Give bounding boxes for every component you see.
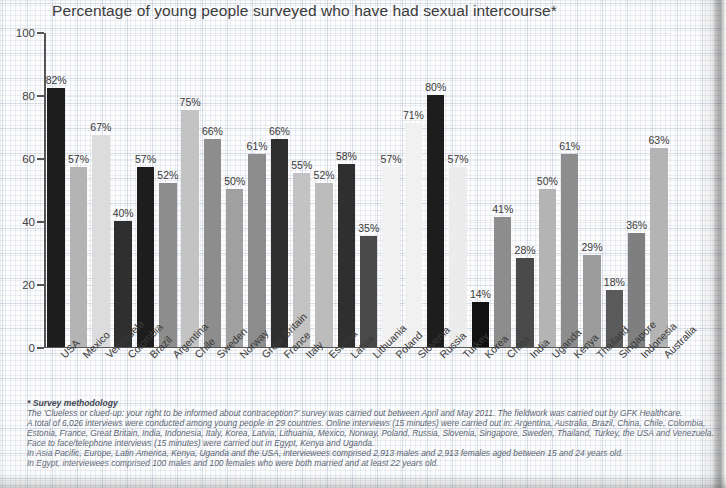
bar: 57% <box>449 167 466 347</box>
bar-value-label: 52% <box>314 169 335 181</box>
bar-value-label: 28% <box>515 244 536 256</box>
bar-value-label: 14% <box>470 288 491 300</box>
y-tick-label: 20 <box>22 279 35 291</box>
footnote-lines: The 'Clueless or clued-up: your right to… <box>27 409 699 468</box>
bar: 58% <box>338 164 355 347</box>
bar-value-label: 82% <box>46 74 67 86</box>
footnote: * Survey methodology The 'Clueless or cl… <box>27 398 699 468</box>
bar-group: 55% <box>291 34 313 347</box>
bar: 52% <box>315 183 332 347</box>
bar-value-label: 80% <box>425 81 446 93</box>
footnote-title: * Survey methodology <box>27 398 699 408</box>
bar: 63% <box>650 148 667 346</box>
bar-value-label: 61% <box>559 140 580 152</box>
bar-group: 80% <box>425 34 447 347</box>
chart-title: Percentage of young people surveyed who … <box>52 2 557 20</box>
bar-group: 29% <box>581 34 603 347</box>
bar-group: 52% <box>157 34 179 347</box>
bar-value-label: 67% <box>90 121 111 133</box>
bar-value-label: 52% <box>157 169 178 181</box>
bar-group: 61% <box>246 34 268 347</box>
bar-value-label: 41% <box>492 203 513 215</box>
bar-group: 50% <box>224 34 246 347</box>
chart-page: Percentage of young people surveyed who … <box>0 0 726 488</box>
bar-group: 66% <box>201 34 223 347</box>
bar: 66% <box>204 139 221 347</box>
y-tick-label: 80 <box>22 90 35 102</box>
bar-value-label: 75% <box>180 96 201 108</box>
bar-value-label: 66% <box>269 125 290 137</box>
bar-group: 57% <box>134 34 156 347</box>
bar-value-label: 55% <box>291 159 312 171</box>
bar-value-label: 61% <box>247 140 268 152</box>
bar-group: 61% <box>559 34 581 347</box>
bar-group: 36% <box>626 34 648 347</box>
bar-value-label: 40% <box>113 207 134 219</box>
bar: 80% <box>427 95 444 347</box>
y-tick-label: 60 <box>22 153 35 165</box>
bar-group: 67% <box>90 34 112 347</box>
bar: 52% <box>159 183 176 347</box>
bar-group: 66% <box>268 34 290 347</box>
bar: 35% <box>360 236 377 346</box>
bar-value-label: 50% <box>224 175 245 187</box>
bar-group: 41% <box>492 34 514 347</box>
bar-value-label: 63% <box>649 134 670 146</box>
bar-group: 14% <box>469 34 491 347</box>
bar-group: 40% <box>112 34 134 347</box>
bar-group: 57% <box>67 34 89 347</box>
y-tick-label: 40 <box>22 216 35 228</box>
bar: 66% <box>271 139 288 347</box>
bar: 57% <box>382 167 399 347</box>
bar-group: 57% <box>380 34 402 347</box>
bar-series: 82%57%67%40%57%52%75%66%50%61%66%55%52%5… <box>45 34 670 347</box>
bar-value-label: 57% <box>448 153 469 165</box>
y-tick-mark <box>37 221 44 223</box>
page-right-edge-shadow <box>700 0 726 488</box>
bar: 61% <box>561 154 578 346</box>
bar-value-label: 35% <box>358 222 379 234</box>
y-tick-label: 100 <box>16 27 35 39</box>
bar-value-label: 57% <box>68 153 89 165</box>
bar-group: 75% <box>179 34 201 347</box>
footnote-line: In Egypt, interviewees comprised 100 mal… <box>27 459 699 469</box>
bar-value-label: 57% <box>381 153 402 165</box>
bar-group: 63% <box>648 34 670 347</box>
bar-value-label: 66% <box>202 125 223 137</box>
bar-value-label: 57% <box>135 153 156 165</box>
bar: 75% <box>181 110 198 346</box>
bar: 50% <box>539 189 556 347</box>
bar: 50% <box>226 189 243 347</box>
bar-value-label: 18% <box>604 276 625 288</box>
plot-area: 020406080100 82%57%67%40%57%52%75%66%50%… <box>44 33 670 348</box>
y-tick-mark <box>37 347 44 349</box>
bar-group: 57% <box>447 34 469 347</box>
bar-group: 35% <box>358 34 380 347</box>
bar: 71% <box>405 123 422 347</box>
y-tick-mark <box>37 95 44 97</box>
bar-group: 28% <box>514 34 536 347</box>
bar-group: 52% <box>313 34 335 347</box>
y-tick-label: 0 <box>29 342 35 354</box>
y-tick-mark <box>37 32 44 34</box>
bar-value-label: 36% <box>626 219 647 231</box>
bar: 57% <box>70 167 87 347</box>
bar: 67% <box>92 135 109 346</box>
bar-group: 58% <box>335 34 357 347</box>
bar: 41% <box>494 217 511 346</box>
bar-group: 18% <box>603 34 625 347</box>
bar: 82% <box>47 88 64 346</box>
y-tick-mark <box>37 284 44 286</box>
bar-value-label: 50% <box>537 175 558 187</box>
bar-group: 82% <box>45 34 67 347</box>
y-tick-mark <box>37 158 44 160</box>
bar-group: 71% <box>402 34 424 347</box>
page-bottom-edge-shadow <box>0 474 726 488</box>
bar-value-label: 29% <box>582 241 603 253</box>
bar-value-label: 58% <box>336 150 357 162</box>
bar-value-label: 71% <box>403 109 424 121</box>
bar-group: 50% <box>536 34 558 347</box>
bar: 61% <box>248 154 265 346</box>
